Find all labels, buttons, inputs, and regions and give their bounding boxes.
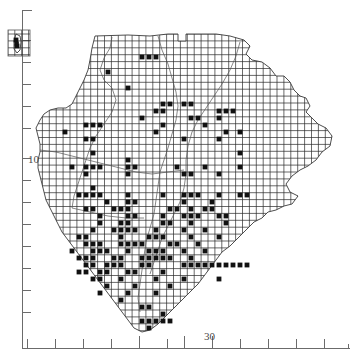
record-dot (210, 207, 215, 212)
record-dot (126, 221, 131, 226)
record-dot (126, 86, 131, 91)
record-dot (98, 249, 103, 254)
record-dot (189, 193, 194, 198)
record-dot (77, 256, 82, 261)
record-dot (84, 263, 89, 268)
record-dot (91, 207, 96, 212)
record-dot (91, 123, 96, 128)
record-dot (189, 207, 194, 212)
record-dot (203, 207, 208, 212)
record-dot (189, 221, 194, 226)
record-dot (105, 284, 110, 289)
record-dot (91, 228, 96, 233)
record-dot (147, 319, 152, 324)
record-dot (133, 200, 138, 205)
record-dot (91, 263, 96, 268)
record-dot (119, 235, 124, 240)
record-dot (217, 116, 222, 121)
record-dot (238, 193, 243, 198)
x-axis-tick-label-30: 30 (204, 330, 216, 342)
record-dot (196, 242, 201, 247)
record-dot (224, 130, 229, 135)
record-dot (70, 249, 75, 254)
record-dot (238, 263, 243, 268)
record-dot (161, 312, 166, 317)
record-dot (133, 284, 138, 289)
record-dot (238, 130, 243, 135)
record-dot (189, 172, 194, 177)
record-dot (203, 263, 208, 268)
record-dot (91, 242, 96, 247)
record-dot (182, 249, 187, 254)
record-dot (133, 228, 138, 233)
record-dot (112, 263, 117, 268)
record-dot (119, 242, 124, 247)
record-dot (154, 130, 159, 135)
record-dot (210, 200, 215, 205)
record-dot (196, 214, 201, 219)
record-dot (154, 228, 159, 233)
record-dot (168, 256, 173, 261)
record-dot (140, 55, 145, 60)
record-dot (189, 116, 194, 121)
record-dot (147, 55, 152, 60)
record-dot (231, 109, 236, 114)
record-dot (161, 193, 166, 198)
record-dot (196, 116, 201, 121)
record-dot (217, 235, 222, 240)
record-dot (203, 123, 208, 128)
record-dot (182, 137, 187, 142)
record-dot (245, 263, 250, 268)
record-dot (98, 193, 103, 198)
record-dot (77, 270, 82, 275)
record-dot (126, 242, 131, 247)
record-dot (203, 165, 208, 170)
record-dot (133, 270, 138, 275)
record-dot (147, 249, 152, 254)
record-dot (98, 123, 103, 128)
record-dot (112, 228, 117, 233)
record-dot (98, 242, 103, 247)
record-dot (161, 214, 166, 219)
record-dot (154, 291, 159, 296)
record-dot (119, 277, 124, 282)
record-dot (189, 214, 194, 219)
record-dot (126, 214, 131, 219)
record-dot (182, 277, 187, 282)
record-dot (77, 193, 82, 198)
record-dot (231, 263, 236, 268)
record-dot (105, 263, 110, 268)
record-dot (224, 109, 229, 114)
record-dot (217, 263, 222, 268)
record-dot (91, 137, 96, 142)
record-dot (133, 242, 138, 247)
record-dot (84, 207, 89, 212)
record-dot (175, 207, 180, 212)
record-dot (140, 256, 145, 261)
record-dot (119, 298, 124, 303)
record-dot-inset (15, 42, 19, 46)
record-dot (217, 137, 222, 142)
record-dot (84, 242, 89, 247)
record-dot (91, 151, 96, 156)
record-dot (196, 193, 201, 198)
record-dot (147, 235, 152, 240)
distribution-map-figure: 10 30 (0, 0, 352, 360)
record-dot (203, 228, 208, 233)
record-dot (119, 256, 124, 261)
record-dot (154, 235, 159, 240)
record-dot (168, 102, 173, 107)
record-dot (91, 186, 96, 191)
record-dot (147, 263, 152, 268)
record-dot (168, 242, 173, 247)
record-dot (91, 256, 96, 261)
record-dot (91, 165, 96, 170)
record-dot (168, 207, 173, 212)
record-dot (217, 214, 222, 219)
record-dot (189, 256, 194, 261)
record-dot (91, 277, 96, 282)
record-dot (133, 214, 138, 219)
record-dot (106, 70, 111, 75)
record-dot (224, 263, 229, 268)
record-dot (77, 235, 82, 240)
